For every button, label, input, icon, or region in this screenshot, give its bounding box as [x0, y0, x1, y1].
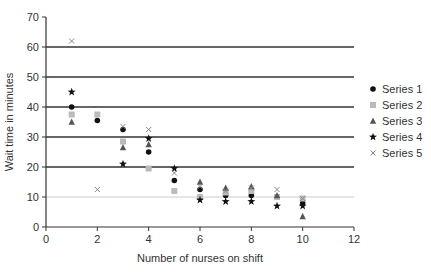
star-marker-icon — [145, 134, 153, 142]
x-tick-label: 12 — [348, 233, 360, 245]
circle-marker-icon — [120, 127, 126, 133]
y-tick-label: 50 — [27, 71, 39, 83]
y-tick-label: 30 — [27, 131, 39, 143]
square-marker-icon — [370, 102, 376, 108]
gridlines — [46, 47, 354, 197]
x-tick-label: 0 — [43, 233, 49, 245]
star-marker-icon — [369, 133, 377, 141]
series-2 — [69, 112, 306, 202]
y-tick-label: 60 — [27, 41, 39, 53]
x-tick-label: 8 — [248, 233, 254, 245]
star-marker-icon — [119, 160, 127, 168]
x-axis-title: Number of nurses on shift — [137, 252, 263, 264]
y-tick-label: 70 — [27, 11, 39, 23]
x-tick-label: 2 — [94, 233, 100, 245]
circle-marker-icon — [370, 86, 376, 92]
series-1 — [69, 104, 306, 206]
series-4 — [68, 88, 307, 210]
square-marker-icon — [120, 139, 126, 145]
star-marker-icon — [273, 202, 281, 210]
x-marker-icon — [371, 151, 376, 156]
y-tick-label: 10 — [27, 191, 39, 203]
series-3 — [68, 119, 305, 220]
legend-label: Series 5 — [382, 147, 422, 159]
triangle-marker-icon — [145, 141, 151, 147]
legend: Series 1Series 2Series 3Series 4Series 5 — [369, 83, 422, 159]
legend-label: Series 4 — [382, 131, 422, 143]
square-marker-icon — [69, 112, 75, 118]
x-marker-icon — [275, 187, 280, 192]
x-marker-icon — [69, 39, 74, 44]
y-axis-title: Wait time in minutes — [3, 72, 15, 171]
legend-label: Series 3 — [382, 115, 422, 127]
circle-marker-icon — [95, 118, 101, 124]
x-marker-icon — [146, 127, 151, 132]
y-tick-label: 40 — [27, 101, 39, 113]
triangle-marker-icon — [299, 213, 305, 219]
x-marker-icon — [172, 171, 177, 176]
square-marker-icon — [146, 166, 152, 172]
circle-marker-icon — [69, 104, 75, 110]
circle-marker-icon — [197, 187, 203, 193]
axes: 010203040506070024681012 — [27, 11, 360, 245]
chart-canvas: 010203040506070024681012 Series 1Series … — [0, 0, 431, 273]
series-5 — [69, 39, 305, 202]
star-marker-icon — [222, 197, 230, 205]
circle-marker-icon — [172, 178, 178, 184]
x-tick-label: 4 — [146, 233, 152, 245]
triangle-marker-icon — [120, 144, 126, 150]
star-marker-icon — [247, 197, 255, 205]
square-marker-icon — [94, 112, 100, 118]
star-marker-icon — [170, 164, 178, 172]
x-tick-label: 6 — [197, 233, 203, 245]
y-tick-label: 20 — [27, 161, 39, 173]
triangle-marker-icon — [222, 185, 228, 191]
x-marker-icon — [95, 187, 100, 192]
square-marker-icon — [171, 188, 177, 194]
circle-marker-icon — [146, 149, 152, 155]
triangle-marker-icon — [370, 118, 376, 124]
scatter-chart: 010203040506070024681012 Series 1Series … — [0, 0, 431, 273]
data-points — [68, 39, 307, 220]
x-tick-label: 10 — [297, 233, 309, 245]
star-marker-icon — [68, 88, 76, 96]
y-tick-label: 0 — [33, 221, 39, 233]
triangle-marker-icon — [68, 119, 74, 125]
legend-label: Series 1 — [382, 83, 422, 95]
legend-label: Series 2 — [382, 99, 422, 111]
